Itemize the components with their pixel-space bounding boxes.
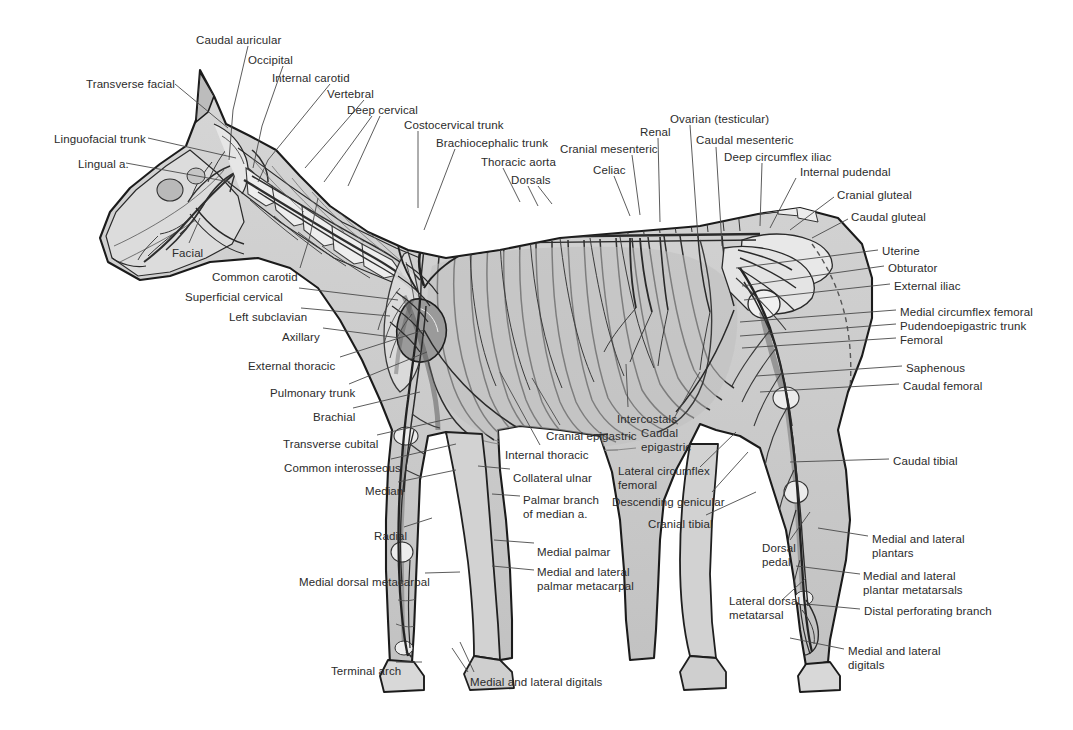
label-saphenous: Saphenous (906, 362, 965, 376)
label-transverse-cubital: Transverse cubital (283, 438, 378, 452)
label-celiac: Celiac (593, 164, 626, 178)
label-linguofacial-trunk: Linguofacial trunk (54, 133, 146, 147)
label-costocervical-trunk: Costocervical trunk (404, 119, 504, 133)
label-medial-lateral-palmar-mc: Medial and lateral palmar metacarpal (537, 566, 634, 593)
label-deep-circumflex-iliac: Deep circumflex iliac (724, 151, 832, 165)
ld-brachiocephalic (424, 149, 455, 230)
label-descending-genicular: Descending genicular (612, 496, 725, 510)
label-medial-lateral-plantars: Medial and lateral plantars (872, 533, 965, 560)
label-caudal-mesenteric: Caudal mesenteric (696, 134, 794, 148)
label-distal-perforating-branch: Distal perforating branch (864, 605, 992, 619)
label-internal-carotid: Internal carotid (272, 72, 350, 86)
label-uterine: Uterine (882, 245, 920, 259)
label-median: Median (365, 485, 403, 499)
label-lateral-dorsal-metatarsal: Lateral dorsal metatarsal (729, 595, 800, 622)
label-terminal-arch: Terminal arch (331, 665, 401, 679)
ld-medial-dorsal-mc (425, 572, 460, 573)
label-medial-palmar: Medial palmar (537, 546, 611, 560)
label-transverse-facial: Transverse facial (86, 78, 175, 92)
label-dorsal-pedal: Dorsal pedal (762, 542, 796, 569)
label-medial-lateral-digitals-fore: Medial and lateral digitals (470, 676, 602, 690)
label-occipital: Occipital (248, 54, 293, 68)
label-caudal-epigastric: Caudal epigastric (641, 427, 691, 454)
label-radial: Radial (374, 530, 407, 544)
label-brachiocephalic-trunk: Brachiocephalic trunk (436, 137, 548, 151)
label-cranial-mesenteric: Cranial mesenteric (560, 143, 658, 157)
ld-digitals-fore-a (452, 648, 468, 672)
label-external-iliac: External iliac (894, 280, 961, 294)
label-deep-cervical: Deep cervical (347, 104, 418, 118)
label-pulmonary-trunk: Pulmonary trunk (270, 387, 355, 401)
label-cranial-tibial: Cranial tibial (648, 518, 713, 532)
label-axillary: Axillary (282, 331, 320, 345)
label-ovarian-testicular: Ovarian (testicular) (670, 113, 769, 127)
label-internal-pudendal: Internal pudendal (800, 166, 891, 180)
label-cranial-epigastric: Cranial epigastric (546, 430, 637, 444)
ld-dorsals-a (528, 186, 538, 206)
label-femoral: Femoral (900, 334, 943, 348)
label-collateral-ulnar: Collateral ulnar (513, 472, 592, 486)
label-lateral-circumflex-femoral: Lateral circumflex femoral (618, 465, 710, 492)
label-left-subclavian: Left subclavian (229, 311, 307, 325)
label-thoracic-aorta: Thoracic aorta (481, 156, 556, 170)
label-dorsals: Dorsals (511, 174, 551, 188)
label-palmar-branch-of-median: Palmar branch of median a. (523, 494, 599, 521)
label-external-thoracic: External thoracic (248, 360, 335, 374)
label-caudal-tibial: Caudal tibial (893, 455, 958, 469)
label-superficial-cervical: Superficial cervical (185, 291, 283, 305)
label-common-carotid: Common carotid (212, 271, 298, 285)
label-medial-lateral-digitals-hind: Medial and lateral digitals (848, 645, 941, 672)
label-medial-lateral-plantar-mt: Medial and lateral plantar metatarsals (863, 570, 963, 597)
anatomy-figure: Caudal auricularOccipitalInternal caroti… (0, 0, 1073, 730)
label-caudal-auricular: Caudal auricular (196, 34, 281, 48)
label-internal-thoracic: Internal thoracic (505, 449, 589, 463)
label-facial: Facial (172, 247, 203, 261)
ld-celiac (614, 176, 630, 216)
ld-dorsals-b (538, 186, 552, 204)
label-cranial-gluteal: Cranial gluteal (837, 189, 912, 203)
label-vertebral: Vertebral (327, 88, 374, 102)
label-caudal-femoral: Caudal femoral (903, 380, 982, 394)
label-pudendoepigastric-trunk: Pudendoepigastric trunk (900, 320, 1026, 334)
label-common-interosseous: Common interosseous (284, 462, 401, 476)
label-obturator: Obturator (888, 262, 937, 276)
label-intercostals: Intercostals (617, 413, 677, 427)
label-brachial: Brachial (313, 411, 355, 425)
label-medial-circumflex-femoral: Medial circumflex femoral (900, 306, 1033, 320)
hooves (380, 660, 840, 692)
label-lingual-a: Lingual a. (78, 158, 129, 172)
label-caudal-gluteal: Caudal gluteal (851, 211, 926, 225)
label-medial-dorsal-metacarpal: Medial dorsal metacarpal (299, 576, 430, 590)
ld-renal (658, 138, 660, 222)
ld-cranial-mesenteric (632, 155, 640, 215)
label-renal: Renal (640, 126, 671, 140)
